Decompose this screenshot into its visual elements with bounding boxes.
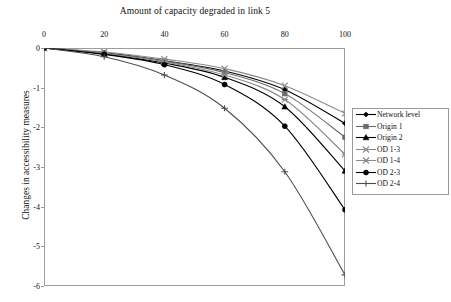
series-od-1-3 (44, 48, 345, 116)
series-line (44, 48, 345, 210)
legend-marker-icon (355, 121, 377, 132)
y-tick-mark (41, 167, 44, 168)
plot-frame (45, 49, 345, 286)
x-axis-tick: 80 (281, 30, 289, 39)
legend-marker-icon (355, 109, 377, 120)
data-point (281, 97, 288, 103)
data-point (283, 91, 288, 96)
legend-item-od-1-3[interactable]: OD 1-3 (353, 144, 448, 156)
legend-item-label: Network level (377, 109, 420, 120)
data-point (222, 82, 227, 87)
x-axis-tick: 0 (42, 30, 46, 39)
data-point (281, 169, 288, 175)
series-origin-1 (44, 48, 345, 140)
series-network-level (44, 48, 345, 126)
data-point (161, 72, 168, 78)
series-od-2-4 (44, 48, 345, 278)
legend-item-label: Origin 1 (377, 121, 403, 132)
legend-item-label: OD 2-3 (377, 167, 400, 178)
legend-item-label: OD 2-4 (377, 178, 400, 189)
chart-legend: Network levelOrigin 1Origin 2OD 1-3OD 1-… (352, 108, 449, 195)
x-axis-tick: 60 (221, 30, 229, 39)
data-point (363, 158, 370, 164)
y-tick-mark (41, 246, 44, 247)
legend-item-label: OD 1-4 (377, 155, 400, 166)
legend-marker-icon (355, 167, 377, 178)
legend-marker-icon (355, 144, 377, 155)
series-line (44, 48, 345, 275)
legend-item-label: Origin 2 (377, 132, 403, 143)
y-tick-mark (41, 48, 44, 49)
x-axis-tick: 100 (339, 30, 351, 39)
y-tick-mark (41, 88, 44, 89)
plot-area: 0204060801000-1-2-3-4-5-6 (44, 48, 345, 286)
y-axis-label: Changes in accessibility measures (21, 75, 31, 235)
data-point (364, 124, 369, 129)
series-line (44, 48, 345, 154)
x-axis-tick: 40 (160, 30, 168, 39)
data-point (162, 62, 167, 67)
data-point (282, 124, 287, 129)
series-od-2-3 (44, 48, 345, 212)
plot-svg (44, 48, 345, 286)
legend-marker-icon (355, 155, 377, 166)
y-tick-mark (41, 207, 44, 208)
legend-item-origin-1[interactable]: Origin 1 (353, 121, 448, 133)
legend-item-od-1-4[interactable]: OD 1-4 (353, 155, 448, 167)
legend-item-label: OD 1-3 (377, 144, 400, 155)
data-point (343, 207, 346, 212)
legend-item-origin-2[interactable]: Origin 2 (353, 132, 448, 144)
y-tick-mark (41, 286, 44, 287)
x-axis-tick: 20 (100, 30, 108, 39)
y-tick-mark (41, 127, 44, 128)
chart-figure: Amount of capacity degraded in link 5 Ch… (0, 0, 451, 302)
data-point (343, 135, 345, 140)
legend-item-network-level[interactable]: Network level (353, 109, 448, 121)
legend-marker-icon (355, 132, 377, 143)
chart-title: Amount of capacity degraded in link 5 (0, 6, 390, 16)
series-line (44, 48, 345, 137)
data-point (364, 170, 369, 175)
legend-item-od-2-3[interactable]: OD 2-3 (353, 167, 448, 179)
legend-marker-icon (355, 178, 377, 189)
legend-item-od-2-4[interactable]: OD 2-4 (353, 178, 448, 190)
data-point (363, 112, 368, 117)
data-point (363, 181, 370, 187)
